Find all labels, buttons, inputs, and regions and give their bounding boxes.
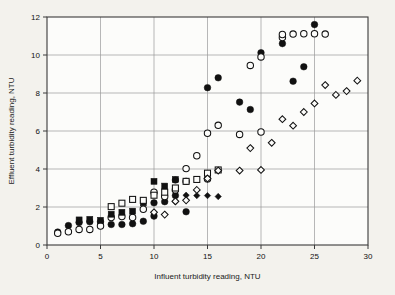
marker-filled-circle bbox=[290, 78, 297, 85]
marker-open-circle bbox=[129, 214, 135, 220]
marker-open-circle bbox=[258, 54, 264, 60]
scatter-plot: 051015202530024681012 Influent turbidity… bbox=[0, 0, 395, 295]
marker-open-circle bbox=[140, 206, 146, 212]
marker-filled-circle bbox=[247, 106, 254, 113]
marker-open-circle bbox=[76, 226, 82, 232]
x-tick-label: 15 bbox=[203, 252, 212, 261]
marker-open-circle bbox=[311, 31, 317, 37]
y-tick-label: 0 bbox=[36, 241, 41, 250]
marker-filled-circle bbox=[108, 221, 115, 228]
marker-filled-circle bbox=[236, 99, 243, 106]
marker-open-circle bbox=[65, 229, 71, 235]
marker-filled-square bbox=[108, 211, 114, 217]
marker-filled-square bbox=[87, 216, 93, 222]
marker-filled-circle bbox=[301, 63, 308, 70]
marker-open-square bbox=[151, 192, 157, 198]
marker-open-circle bbox=[258, 129, 264, 135]
marker-open-circle bbox=[322, 31, 328, 37]
x-axis-title: Influent turbidity reading, NTU bbox=[154, 272, 260, 281]
x-tick-label: 30 bbox=[364, 252, 373, 261]
marker-filled-circle bbox=[311, 21, 318, 28]
x-tick-label: 5 bbox=[98, 252, 103, 261]
marker-open-square bbox=[194, 176, 200, 182]
marker-open-circle bbox=[183, 165, 189, 171]
marker-open-circle bbox=[204, 130, 210, 136]
marker-filled-circle bbox=[151, 200, 158, 207]
y-tick-label: 6 bbox=[36, 127, 41, 136]
marker-open-square bbox=[140, 197, 146, 203]
chart-figure: 051015202530024681012 Influent turbidity… bbox=[0, 0, 395, 295]
marker-filled-circle bbox=[279, 40, 286, 47]
marker-filled-square bbox=[172, 176, 178, 182]
marker-filled-circle bbox=[204, 84, 211, 91]
marker-open-square bbox=[119, 200, 125, 206]
marker-open-square bbox=[130, 196, 136, 202]
marker-open-circle bbox=[194, 153, 200, 159]
marker-filled-square bbox=[119, 209, 125, 215]
marker-filled-square bbox=[76, 217, 82, 223]
marker-open-circle bbox=[279, 31, 285, 37]
x-tick-label: 20 bbox=[257, 252, 266, 261]
x-tick-label: 25 bbox=[310, 252, 319, 261]
marker-open-square bbox=[108, 204, 114, 210]
marker-open-circle bbox=[87, 226, 93, 232]
x-tick-label: 10 bbox=[150, 252, 159, 261]
marker-filled-circle bbox=[140, 218, 147, 225]
x-tick-label: 0 bbox=[45, 252, 50, 261]
y-tick-label: 10 bbox=[31, 51, 40, 60]
marker-open-circle bbox=[290, 31, 296, 37]
marker-open-square bbox=[183, 178, 189, 184]
marker-open-circle bbox=[215, 122, 221, 128]
y-tick-label: 2 bbox=[36, 203, 41, 212]
y-tick-label: 12 bbox=[31, 13, 40, 22]
marker-open-square bbox=[172, 185, 178, 191]
marker-filled-circle bbox=[65, 222, 72, 229]
marker-open-circle bbox=[247, 62, 253, 68]
marker-open-circle bbox=[55, 230, 61, 236]
marker-filled-circle bbox=[215, 75, 222, 82]
marker-filled-circle bbox=[129, 220, 136, 227]
marker-open-circle bbox=[236, 131, 242, 137]
marker-filled-circle bbox=[183, 208, 190, 215]
marker-filled-circle bbox=[119, 221, 126, 228]
marker-open-circle bbox=[97, 223, 103, 229]
y-tick-label: 8 bbox=[36, 89, 41, 98]
y-axis-title: Effluent turbidity reading, NTU bbox=[7, 77, 16, 184]
marker-filled-square bbox=[162, 183, 168, 189]
marker-open-circle bbox=[301, 31, 307, 37]
marker-filled-square bbox=[98, 217, 104, 223]
marker-filled-square bbox=[130, 208, 136, 214]
marker-filled-square bbox=[151, 178, 157, 184]
y-tick-label: 4 bbox=[36, 165, 41, 174]
marker-open-square bbox=[162, 189, 168, 195]
